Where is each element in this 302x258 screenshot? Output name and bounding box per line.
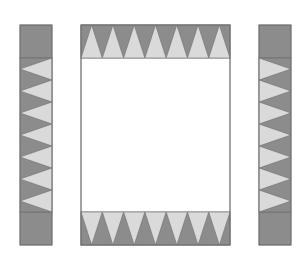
- top-square: [259, 25, 291, 58]
- bottom-square: [259, 212, 291, 245]
- quilt-diagram: [0, 0, 302, 258]
- right-sawtooth-strip: [259, 25, 291, 245]
- top-square: [20, 25, 52, 58]
- center-panel: [81, 25, 230, 245]
- left-sawtooth-strip: [20, 25, 52, 245]
- bottom-square: [20, 212, 52, 245]
